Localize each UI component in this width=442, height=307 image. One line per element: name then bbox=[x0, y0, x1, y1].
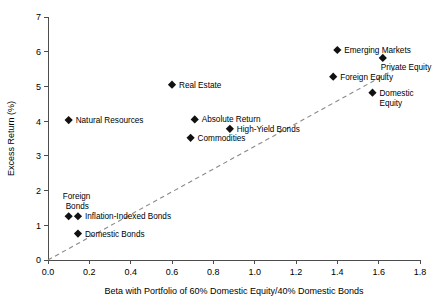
y-tick-label: 2 bbox=[36, 186, 41, 196]
data-point: Real Estate bbox=[168, 81, 222, 90]
diamond-marker bbox=[65, 212, 73, 220]
diamond-marker bbox=[74, 230, 82, 238]
data-point: Foreign Equity bbox=[329, 73, 394, 82]
diamond-marker bbox=[329, 73, 337, 81]
y-axis-title: Excess Return (%) bbox=[6, 101, 16, 176]
point-label: Absolute Return bbox=[202, 115, 261, 124]
data-point: Domestic Bonds bbox=[74, 230, 145, 239]
x-tick-label: 1.8 bbox=[414, 267, 427, 277]
y-tick-label: 6 bbox=[36, 47, 41, 57]
point-label: Foreign bbox=[63, 192, 91, 201]
y-tick-label: 5 bbox=[36, 82, 41, 92]
diamond-marker bbox=[187, 134, 195, 142]
data-point: Absolute Return bbox=[191, 115, 261, 124]
data-point: Private Equity bbox=[379, 54, 433, 72]
x-tick-label: 1.0 bbox=[248, 267, 261, 277]
point-label: Inflation-Indexed Bonds bbox=[85, 212, 171, 221]
x-tick-label: 1.2 bbox=[290, 267, 303, 277]
scatter-chart: 012345670.00.20.40.60.81.01.21.41.61.8 E… bbox=[0, 0, 442, 307]
point-label: Emerging Markets bbox=[344, 46, 410, 55]
diamond-marker bbox=[74, 212, 82, 220]
plot-area: 012345670.00.20.40.60.81.01.21.41.61.8 E… bbox=[0, 0, 442, 307]
point-label: Commodities bbox=[198, 134, 246, 143]
y-tick-label: 1 bbox=[36, 221, 41, 231]
point-label: Natural Resources bbox=[76, 116, 144, 125]
point-label: Real Estate bbox=[179, 81, 222, 90]
x-tick-label: 0.6 bbox=[166, 267, 179, 277]
diamond-marker bbox=[368, 89, 376, 97]
data-point: Natural Resources bbox=[65, 116, 144, 125]
diamond-marker bbox=[333, 46, 341, 54]
point-label: Domestic bbox=[379, 89, 413, 98]
data-point: Inflation-Indexed Bonds bbox=[74, 212, 171, 221]
x-tick-label: 1.6 bbox=[372, 267, 385, 277]
x-axis-title: Beta with Portfolio of 60% Domestic Equi… bbox=[104, 286, 364, 296]
data-point: Emerging Markets bbox=[333, 46, 411, 55]
point-label: Foreign Equity bbox=[340, 73, 394, 82]
y-tick-label: 0 bbox=[36, 255, 41, 265]
x-tick-label: 0.8 bbox=[207, 267, 220, 277]
diamond-marker bbox=[379, 54, 387, 62]
x-tick-label: 0.2 bbox=[83, 267, 96, 277]
point-label: Domestic Bonds bbox=[85, 230, 145, 239]
x-tick-label: 0.4 bbox=[124, 267, 137, 277]
axis-titles: Beta with Portfolio of 60% Domestic Equi… bbox=[6, 101, 364, 296]
data-point: Commodities bbox=[187, 134, 246, 143]
point-label: Bonds bbox=[66, 202, 89, 211]
data-point: High-Yield Bonds bbox=[226, 125, 300, 134]
x-tick-label: 1.4 bbox=[331, 267, 344, 277]
point-label: Equity bbox=[379, 99, 403, 108]
x-tick-label: 0.0 bbox=[42, 267, 55, 277]
data-points: Emerging MarketsPrivate EquityForeign Eq… bbox=[63, 46, 433, 239]
point-label: Private Equity bbox=[381, 63, 432, 72]
y-tick-label: 7 bbox=[36, 12, 41, 22]
y-tick-label: 3 bbox=[36, 151, 41, 161]
diamond-marker bbox=[191, 115, 199, 123]
diamond-marker bbox=[168, 81, 176, 89]
point-label: High-Yield Bonds bbox=[237, 125, 300, 134]
y-tick-label: 4 bbox=[36, 117, 41, 127]
diamond-marker bbox=[65, 116, 73, 124]
diamond-marker bbox=[226, 125, 234, 133]
data-point: DomesticEquity bbox=[368, 89, 413, 108]
